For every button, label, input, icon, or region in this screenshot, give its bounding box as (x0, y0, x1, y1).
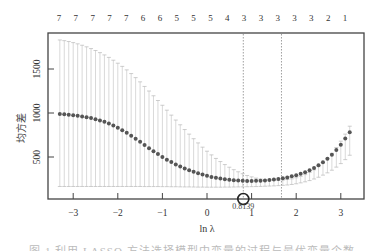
data-point (250, 179, 254, 183)
data-point (98, 118, 102, 122)
top-label: 2 (326, 13, 331, 23)
top-label: 6 (141, 13, 146, 23)
data-point (156, 152, 160, 156)
x-tick-label: 2 (294, 208, 299, 218)
y-axis: 50010001500 (32, 59, 54, 164)
data-point (94, 117, 98, 121)
data-point (290, 174, 294, 178)
data-point (227, 178, 231, 182)
top-label: 6 (158, 13, 163, 23)
data-point (348, 130, 352, 134)
data-point (116, 126, 120, 130)
data-point (147, 146, 151, 150)
top-label: 3 (242, 13, 247, 23)
data-point (281, 176, 285, 180)
data-point (223, 177, 227, 181)
x-tick-label: 3 (338, 208, 343, 218)
data-point (183, 166, 187, 170)
data-point (89, 116, 93, 120)
data-point (241, 179, 245, 183)
top-label: 3 (259, 13, 264, 23)
data-point (67, 113, 71, 117)
data-point (209, 175, 213, 179)
data-point (160, 155, 164, 159)
data-point (343, 137, 347, 141)
data-point (201, 173, 205, 177)
top-label: 1 (343, 13, 348, 23)
top-label: 7 (90, 13, 95, 23)
x-axis-label: ln λ (199, 223, 214, 234)
data-point (285, 175, 289, 179)
data-point (134, 137, 138, 141)
data-point (120, 128, 124, 132)
top-label: 3 (309, 13, 314, 23)
data-point (165, 158, 169, 162)
top-label: 7 (57, 13, 62, 23)
data-point (138, 140, 142, 144)
data-point (125, 131, 129, 135)
data-point (232, 178, 236, 182)
data-point (214, 176, 218, 180)
data-point (58, 112, 62, 116)
data-point (205, 174, 209, 178)
data-point (321, 160, 325, 164)
data-point (276, 177, 280, 181)
top-axis-variable-counts: 777776655543333321 (57, 13, 348, 23)
data-point (187, 168, 191, 172)
optimal-lambda-label: 0.8139 (232, 202, 254, 211)
data-point (129, 134, 133, 138)
data-point (107, 122, 111, 126)
data-point (169, 160, 173, 164)
data-point (196, 171, 200, 175)
top-label: 5 (175, 13, 180, 23)
top-label: 4 (225, 13, 230, 23)
data-point (294, 173, 298, 177)
figure-caption: 图 1 利用 LASSO 方法选择模型中变量的过程与最优变量个数 (0, 243, 384, 251)
data-point (143, 143, 147, 147)
top-label: 7 (107, 13, 112, 23)
lambda-reference-lines (243, 34, 281, 198)
data-point (218, 177, 222, 181)
y-tick-label: 500 (32, 150, 42, 165)
x-tick-label: −3 (68, 208, 78, 218)
data-point (325, 157, 329, 161)
y-tick-label: 1000 (32, 103, 42, 122)
x-tick-label: −2 (113, 208, 123, 218)
error-bars (58, 40, 352, 187)
y-tick-label: 1500 (32, 59, 42, 78)
data-point (178, 165, 182, 169)
data-point (174, 162, 178, 166)
data-point (339, 143, 343, 147)
data-point (245, 179, 249, 183)
data-point (236, 178, 240, 182)
data-point (259, 179, 263, 183)
data-point (334, 148, 338, 152)
x-tick-label: −1 (157, 208, 167, 218)
data-point (85, 115, 89, 119)
data-point (303, 170, 307, 174)
data-point (62, 112, 66, 116)
data-point (76, 114, 80, 118)
data-point (254, 179, 258, 183)
top-label: 7 (74, 13, 79, 23)
data-point (299, 172, 303, 176)
top-label: 5 (208, 13, 213, 23)
top-label: 7 (124, 13, 129, 23)
data-point (330, 153, 334, 157)
x-tick-label: 0 (205, 208, 210, 218)
top-label: 3 (292, 13, 297, 23)
data-point (102, 120, 106, 124)
data-point (312, 166, 316, 170)
data-point (71, 113, 75, 117)
top-label: 5 (191, 13, 196, 23)
lasso-cv-plot: 777776655543333321 −3−2−10123 5001000150… (0, 0, 384, 251)
x-axis: −3−2−10123 (68, 193, 343, 218)
data-point (192, 170, 196, 174)
data-point (263, 178, 267, 182)
data-point (111, 123, 115, 127)
data-point (80, 115, 84, 119)
data-point (151, 149, 155, 153)
data-point (272, 178, 276, 182)
data-point (267, 178, 271, 182)
data-point (317, 163, 321, 167)
